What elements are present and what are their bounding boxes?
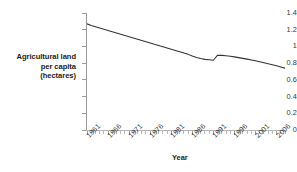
agricultural-land-per-capita-chart: Agricultural land per capita (hectares) … (0, 0, 297, 172)
y-axis-tick (82, 29, 86, 30)
y-axis-tick (82, 63, 86, 64)
x-axis-tick-minor (183, 131, 184, 134)
chart-screenshot: Agricultural land per capita (hectares) … (0, 0, 297, 172)
x-axis-tick-minor (141, 131, 142, 134)
data-line-series (87, 13, 285, 130)
y-axis-tick (82, 96, 86, 97)
y-axis-tick (82, 13, 86, 14)
x-axis-tick-minor (272, 131, 273, 134)
plot-area (87, 13, 285, 130)
series-polyline (87, 24, 285, 68)
x-axis-tick-minor (247, 131, 248, 134)
y-axis-tick (82, 79, 86, 80)
x-axis-tick-minor (162, 131, 163, 134)
x-axis-tick-minor (204, 131, 205, 134)
x-axis-tick-minor (251, 131, 252, 134)
y-axis-title-line-2: per capita (4, 62, 76, 72)
y-axis-title: Agricultural land per capita (hectares) (4, 52, 76, 81)
y-axis-tick (82, 46, 86, 47)
x-axis-tick-minor (120, 131, 121, 134)
y-axis-title-line-3: (hectares) (4, 71, 76, 81)
x-axis-title: Year (172, 153, 188, 162)
y-axis-title-line-1: Agricultural land (4, 52, 76, 62)
x-axis-tick-minor (226, 131, 227, 134)
y-axis-tick (82, 113, 86, 114)
x-axis-tick-minor (99, 131, 100, 134)
